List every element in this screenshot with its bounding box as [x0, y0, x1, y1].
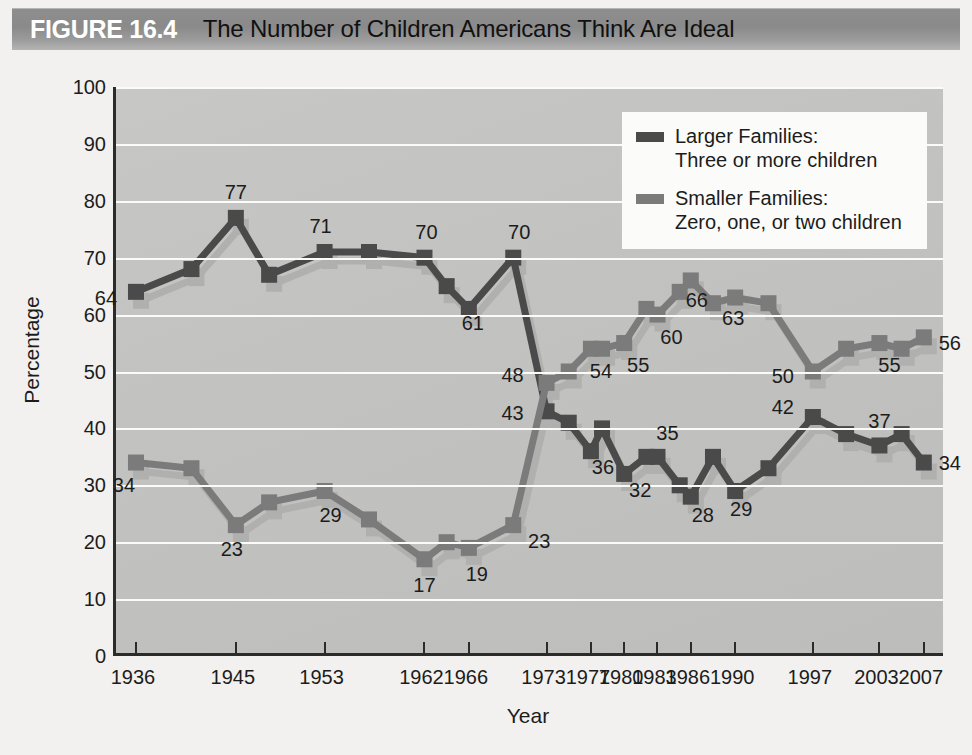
x-axis-tick-label: 1997: [775, 666, 845, 689]
figure-title-text: The Number of Children Americans Think A…: [203, 15, 735, 43]
y-axis-tick-labels: 0102030405060708090100: [48, 87, 106, 656]
y-axis-tick-label: 70: [60, 246, 106, 269]
y-axis-tick-label: 100: [60, 76, 106, 99]
data-point-marker: [683, 272, 699, 288]
data-point-marker: [705, 295, 721, 311]
legend-label-larger-families-line1: Larger Families:: [675, 125, 818, 147]
x-axis-tick: [656, 642, 658, 653]
data-point-marker: [727, 290, 743, 306]
figure-body: Percentage 0102030405060708090100 647771…: [0, 52, 972, 755]
data-point-marker: [539, 375, 555, 391]
y-axis-tick-label: 10: [60, 588, 106, 611]
y-axis-tick-label: 90: [60, 132, 106, 155]
legend-swatch-smaller-families: [636, 194, 664, 204]
data-point-marker: [361, 511, 377, 527]
x-axis-tick: [590, 642, 592, 653]
x-axis-tick-label: 1936: [98, 666, 168, 689]
data-point-marker: [838, 341, 854, 357]
x-axis-tick: [135, 642, 137, 653]
data-point-marker: [228, 517, 244, 533]
gridline: [116, 258, 943, 260]
data-point-marker: [261, 494, 277, 510]
x-axis-tick-label: 1990: [697, 666, 767, 689]
data-point-marker: [683, 489, 699, 505]
gridline: [116, 542, 943, 544]
data-point-marker: [128, 284, 144, 300]
data-point-marker: [805, 409, 821, 425]
gridline: [116, 87, 943, 89]
y-axis-tick-label: 80: [60, 189, 106, 212]
x-axis-tick: [878, 642, 880, 653]
data-point-marker: [916, 455, 932, 471]
legend-label-smaller-families-line1: Smaller Families:: [675, 187, 828, 209]
data-point-marker: [439, 278, 455, 294]
data-point-marker: [183, 261, 199, 277]
y-axis-tick-label: 30: [60, 474, 106, 497]
data-point-marker: [705, 449, 721, 465]
y-axis-tick-label: 40: [60, 417, 106, 440]
y-axis-tick-label: 0: [60, 645, 106, 668]
x-axis-tick: [324, 642, 326, 653]
data-point-marker: [616, 335, 632, 351]
x-axis-tick: [812, 642, 814, 653]
y-axis-tick-label: 20: [60, 531, 106, 554]
data-point-marker: [594, 341, 610, 357]
data-point-marker: [616, 466, 632, 482]
data-point-marker: [228, 210, 244, 226]
x-axis-tick-label: 1953: [287, 666, 357, 689]
x-axis-tick: [468, 642, 470, 653]
gridline: [116, 428, 943, 430]
x-axis-tick: [423, 642, 425, 653]
legend-swatch-larger-families: [636, 132, 664, 142]
data-point-marker: [261, 267, 277, 283]
y-axis-tick-label: 60: [60, 303, 106, 326]
gridline: [116, 315, 943, 317]
x-axis-tick: [235, 642, 237, 653]
y-axis-tick-label: 50: [60, 360, 106, 383]
legend-label-smaller-families: Smaller Families: Zero, one, or two chil…: [675, 186, 902, 235]
legend-item-larger-families: Larger Families: Three or more children: [636, 124, 911, 173]
data-point-marker: [583, 443, 599, 459]
x-axis-tick: [923, 642, 925, 653]
gridline: [116, 485, 943, 487]
figure-title-bar: FIGURE 16.4 The Number of Children Ameri…: [12, 8, 960, 50]
legend-item-smaller-families: Smaller Families: Zero, one, or two chil…: [636, 186, 911, 235]
data-point-marker: [416, 551, 432, 567]
figure-page: FIGURE 16.4 The Number of Children Ameri…: [0, 0, 972, 755]
x-axis-tick: [546, 642, 548, 653]
data-point-marker: [894, 341, 910, 357]
legend-label-larger-families: Larger Families: Three or more children: [675, 124, 877, 173]
data-point-marker: [760, 295, 776, 311]
x-axis-tick-label: 1945: [198, 666, 268, 689]
data-point-marker: [871, 437, 887, 453]
legend-label-larger-families-line2: Three or more children: [675, 148, 877, 172]
x-axis-tick-label: 1966: [431, 666, 501, 689]
x-axis-tick-label: 2007: [886, 666, 956, 689]
data-point-marker: [128, 455, 144, 471]
legend-label-smaller-families-line2: Zero, one, or two children: [675, 210, 902, 234]
figure-number-label: FIGURE 16.4: [30, 15, 177, 44]
x-axis-tick: [734, 642, 736, 653]
data-point-marker: [183, 460, 199, 476]
data-point-marker: [916, 329, 932, 345]
y-axis-title: Percentage: [20, 270, 44, 430]
data-point-marker: [505, 517, 521, 533]
data-point-marker: [760, 460, 776, 476]
x-axis-title: Year: [113, 704, 943, 728]
gridline: [116, 599, 943, 601]
gridline: [116, 372, 943, 374]
x-axis-tick: [623, 642, 625, 653]
data-point-marker: [871, 335, 887, 351]
chart-legend: Larger Families: Three or more children …: [622, 112, 927, 249]
data-point-marker: [649, 449, 665, 465]
x-axis-tick: [690, 642, 692, 653]
